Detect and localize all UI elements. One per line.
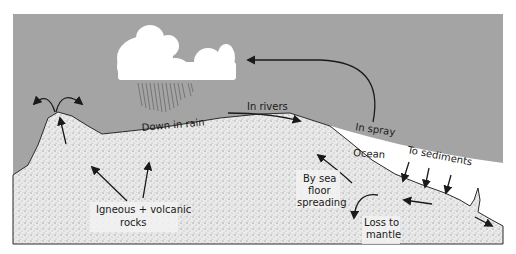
diagram: Down in rain In rivers In spray Ocean To…	[0, 0, 516, 254]
in-rivers-label: In rivers	[247, 101, 288, 112]
sea-floor-spreading-label-1: By sea	[303, 173, 336, 184]
sea-floor-spreading-label-2: floor	[308, 185, 332, 196]
ocean-label: Ocean	[353, 147, 386, 160]
diagram-svg: Down in rain In rivers In spray Ocean To…	[0, 0, 516, 254]
igneous-label-2: rocks	[120, 217, 147, 228]
sea-floor-spreading-label-3: spreading	[297, 197, 347, 208]
loss-to-mantle-label-2: mantle	[366, 229, 401, 240]
igneous-label-1: Igneous + volcanic	[96, 204, 191, 215]
loss-to-mantle-label-1: Loss to	[364, 217, 399, 228]
